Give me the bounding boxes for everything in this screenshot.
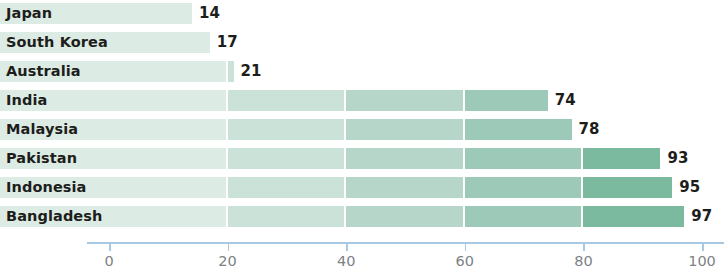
axis-baseline xyxy=(87,242,724,244)
bar-category-label: Japan xyxy=(6,3,52,24)
bar-segment xyxy=(583,148,660,169)
axis-tick xyxy=(228,242,230,251)
bar-row: Bangladesh97 xyxy=(0,206,723,227)
axis-tick xyxy=(109,242,111,251)
chart-plot-area: Japan14South Korea17Australia21India74Ma… xyxy=(0,0,723,237)
bar-segment xyxy=(465,119,572,140)
bar-segment xyxy=(346,148,465,169)
bar-segment xyxy=(465,206,584,227)
bar-row: Australia21 xyxy=(0,61,723,82)
axis-tick-label: 40 xyxy=(337,253,355,269)
axis-tick xyxy=(465,242,467,251)
bar-value-label: 78 xyxy=(579,119,600,140)
axis-tick-label: 0 xyxy=(104,253,113,269)
bar-category-label: Pakistan xyxy=(6,148,77,169)
chart-x-axis: 020406080100 xyxy=(0,237,723,277)
axis-tick-label: 80 xyxy=(574,253,592,269)
bar-segment xyxy=(346,90,465,111)
bar-value-label: 95 xyxy=(679,177,700,198)
bar-segment xyxy=(583,206,684,227)
bar xyxy=(0,177,672,198)
bar-category-label: South Korea xyxy=(6,32,108,53)
bar-segment xyxy=(228,119,347,140)
bar-category-label: Bangladesh xyxy=(6,206,102,227)
bar-segment xyxy=(583,177,672,198)
bar-category-label: Australia xyxy=(6,61,81,82)
bar-category-label: Indonesia xyxy=(6,177,87,198)
bar-segment xyxy=(465,90,548,111)
bar-segment xyxy=(346,119,465,140)
axis-tick xyxy=(346,242,348,251)
bar-row: Indonesia95 xyxy=(0,177,723,198)
bar-row: Japan14 xyxy=(0,3,723,24)
bar xyxy=(0,90,548,111)
bar-segment xyxy=(465,148,584,169)
bar-row: India74 xyxy=(0,90,723,111)
axis-tick-label: 20 xyxy=(218,253,236,269)
axis-tick xyxy=(583,242,585,251)
bar-value-label: 97 xyxy=(691,206,712,227)
bar-segment xyxy=(346,206,465,227)
axis-tick xyxy=(702,242,704,251)
bar-segment xyxy=(228,177,347,198)
bar-segment xyxy=(346,177,465,198)
bar-segment xyxy=(228,90,347,111)
bar-value-label: 21 xyxy=(241,61,262,82)
bar-value-label: 17 xyxy=(217,32,238,53)
bar-segment xyxy=(228,206,347,227)
axis-tick-label: 100 xyxy=(688,253,716,269)
bar-category-label: Malaysia xyxy=(6,119,78,140)
bar xyxy=(0,206,684,227)
bar-category-label: India xyxy=(6,90,47,111)
bar-row: Pakistan93 xyxy=(0,148,723,169)
bar xyxy=(0,148,660,169)
bar-row: Malaysia78 xyxy=(0,119,723,140)
bar-segment xyxy=(465,177,584,198)
bar-segment xyxy=(228,61,234,82)
bar-segment xyxy=(228,148,347,169)
bar-value-label: 93 xyxy=(667,148,688,169)
bar xyxy=(0,119,572,140)
bar-row: South Korea17 xyxy=(0,32,723,53)
axis-tick-label: 60 xyxy=(456,253,474,269)
bar-value-label: 14 xyxy=(199,3,220,24)
bar-value-label: 74 xyxy=(555,90,576,111)
